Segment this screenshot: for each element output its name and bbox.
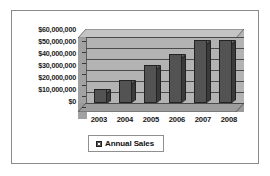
bar-side-face <box>232 40 236 103</box>
bar-front-face <box>219 40 232 103</box>
x-axis-tick-label-2007: 2007 <box>190 115 216 124</box>
chart-frame: $60,000,000 $50,000,000 $40,000,000 $30,… <box>11 10 259 164</box>
square-swatch-icon <box>96 141 102 147</box>
bar-side-face <box>182 55 186 103</box>
bar-2003[interactable] <box>94 29 107 107</box>
y-axis-tick <box>82 85 86 86</box>
bar-2005[interactable] <box>144 29 157 107</box>
x-axis-tick-label-2005: 2005 <box>138 115 164 124</box>
x-axis-tick-label-2006: 2006 <box>164 115 190 124</box>
x-axis-labels: 2003 2004 2005 2006 2007 2008 <box>78 115 248 127</box>
x-axis-tick-label-2008: 2008 <box>216 115 242 124</box>
y-axis-tick-label: $60,000,000 <box>18 26 76 34</box>
bar-front-face <box>169 54 182 103</box>
bar-side-face <box>157 66 161 103</box>
bar-2006[interactable] <box>169 29 182 107</box>
legend-entry-label: Annual Sales <box>105 139 154 148</box>
bar-2007[interactable] <box>194 29 207 107</box>
y-axis-tick <box>82 96 86 97</box>
y-axis-tick <box>82 74 86 75</box>
y-axis-tick-label: $50,000,000 <box>18 38 76 46</box>
bar-side-face <box>132 81 136 103</box>
bar-front-face <box>194 40 207 103</box>
y-axis-tick-label: $0 <box>18 98 76 106</box>
y-axis-tick-label: $30,000,000 <box>18 62 76 70</box>
bar-2008[interactable] <box>219 29 232 107</box>
bar-front-face <box>144 65 157 103</box>
bar-2004[interactable] <box>119 29 132 107</box>
plot-area <box>78 29 244 111</box>
y-axis-tick <box>82 41 86 42</box>
y-axis-labels: $60,000,000 $50,000,000 $40,000,000 $30,… <box>14 11 76 165</box>
y-axis-tick-label: $10,000,000 <box>18 86 76 94</box>
x-axis-tick-label-2004: 2004 <box>112 115 138 124</box>
chart-plot-wrapper: $60,000,000 $50,000,000 $40,000,000 $30,… <box>12 11 260 165</box>
y-axis-tick <box>82 107 86 108</box>
bar-front-face <box>119 80 132 103</box>
bar-front-face <box>94 89 107 104</box>
y-axis-tick <box>82 52 86 53</box>
y-axis-tick <box>82 63 86 64</box>
x-axis-tick-label-2003: 2003 <box>86 115 112 124</box>
y-axis-tick-label: $40,000,000 <box>18 50 76 58</box>
bar-side-face <box>207 40 211 103</box>
chart-legend[interactable]: Annual Sales <box>88 135 164 152</box>
y-axis-tick-label: $20,000,000 <box>18 74 76 82</box>
